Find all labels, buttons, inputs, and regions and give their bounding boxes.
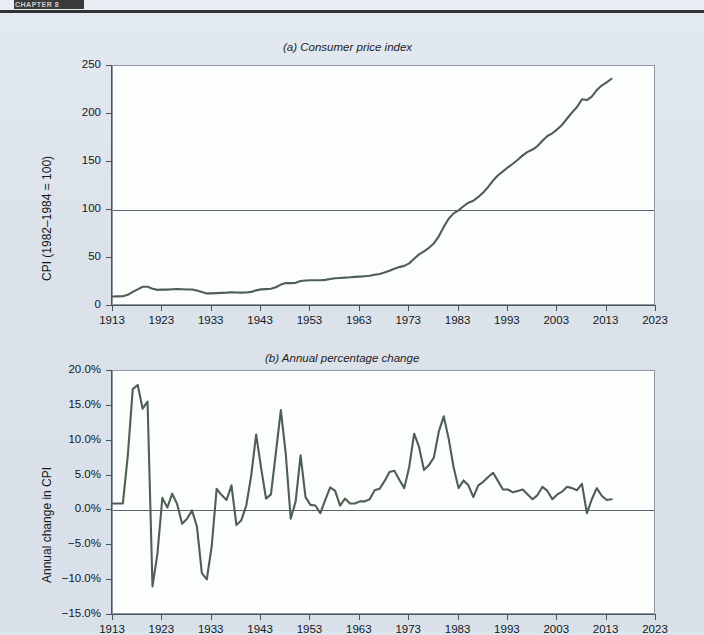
x-tick-mark <box>655 305 656 311</box>
x-tick-mark <box>112 614 113 620</box>
y-tick-mark <box>106 579 112 580</box>
y-tick-mark <box>106 405 112 406</box>
x-tick-mark <box>309 614 310 620</box>
chart-b-title: (b) Annual percentage change <box>265 352 419 364</box>
x-tick-mark <box>408 614 409 620</box>
y-tick-label: 250 <box>39 58 101 70</box>
chart-b-y-axis-title: Annual change in CPI <box>40 467 54 583</box>
x-tick-label: 2023 <box>625 623 685 635</box>
chart-b-series-line <box>113 371 656 615</box>
chart-b-x-axis <box>111 614 655 615</box>
x-tick-mark <box>606 305 607 311</box>
y-tick-label: 20.0% <box>39 363 101 375</box>
x-tick-mark <box>359 614 360 620</box>
x-tick-mark <box>408 305 409 311</box>
y-tick-mark <box>106 209 112 210</box>
y-tick-label: 15.0% <box>39 398 101 410</box>
chart-a-y-axis <box>111 65 112 306</box>
x-tick-mark <box>507 305 508 311</box>
chart-a-y-axis-title: CPI (1982–1984 = 100) <box>40 156 54 281</box>
chart-b-plot-area <box>112 370 655 614</box>
y-tick-mark <box>106 440 112 441</box>
y-tick-label: 5.0% <box>39 468 101 480</box>
y-tick-label: 150 <box>39 154 101 166</box>
chapter-tag-label: CHAPTER 8 <box>14 0 84 9</box>
chart-panel-a: (a) Consumer price index CPI (1982–1984 … <box>0 13 704 338</box>
y-tick-mark <box>106 113 112 114</box>
x-tick-mark <box>507 614 508 620</box>
y-tick-mark <box>106 544 112 545</box>
chart-a-plot-area <box>112 65 655 305</box>
y-tick-mark <box>106 475 112 476</box>
y-tick-label: 10.0% <box>39 433 101 445</box>
y-tick-label: 200 <box>39 106 101 118</box>
y-tick-label: −10.0% <box>39 572 101 584</box>
x-tick-mark <box>260 614 261 620</box>
y-tick-mark <box>106 257 112 258</box>
x-tick-mark <box>458 305 459 311</box>
x-tick-mark <box>211 305 212 311</box>
x-tick-mark <box>359 305 360 311</box>
x-tick-mark <box>112 305 113 311</box>
y-tick-label: −15.0% <box>39 607 101 619</box>
y-tick-label: 100 <box>39 202 101 214</box>
chart-a-x-axis <box>111 305 655 306</box>
x-tick-mark <box>606 614 607 620</box>
y-tick-label: 0.0% <box>39 502 101 514</box>
chart-a-series-line <box>113 66 656 306</box>
y-tick-label: −5.0% <box>39 537 101 549</box>
chapter-tag: CHAPTER 8 <box>14 0 84 9</box>
x-tick-mark <box>556 614 557 620</box>
y-tick-mark <box>106 65 112 66</box>
y-tick-mark <box>106 370 112 371</box>
x-tick-mark <box>655 614 656 620</box>
x-tick-mark <box>161 614 162 620</box>
chart-panel-b: (b) Annual percentage change Annual chan… <box>0 338 704 631</box>
header-bar: CHAPTER 8 <box>0 0 704 10</box>
chart-a-title: (a) Consumer price index <box>283 41 412 53</box>
x-tick-mark <box>161 305 162 311</box>
x-tick-mark <box>458 614 459 620</box>
x-tick-mark <box>556 305 557 311</box>
x-tick-mark <box>260 305 261 311</box>
x-tick-mark <box>211 614 212 620</box>
y-tick-label: 50 <box>39 250 101 262</box>
y-tick-mark <box>106 161 112 162</box>
x-tick-label: 2023 <box>625 314 685 326</box>
x-tick-mark <box>309 305 310 311</box>
y-tick-mark <box>106 509 112 510</box>
y-tick-label: 0 <box>39 298 101 310</box>
